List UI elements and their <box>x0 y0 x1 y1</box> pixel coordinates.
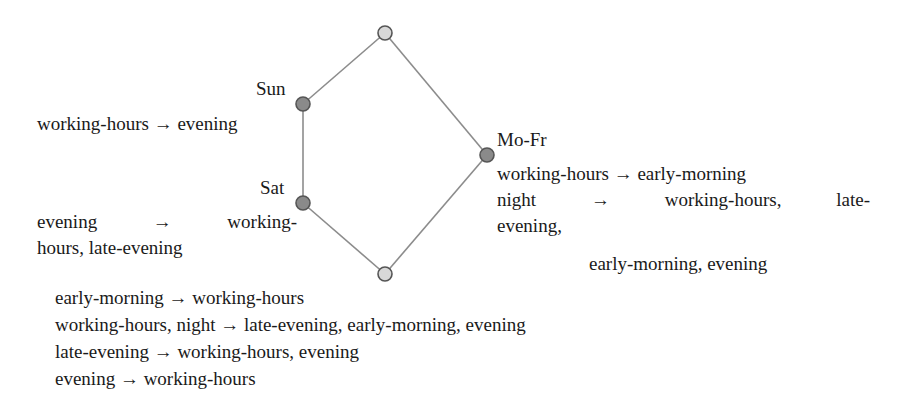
rule-mofr-rhs-a: working-hours, <box>665 188 782 212</box>
label-mofr: Mo-Fr <box>497 128 547 152</box>
rule-mofr-arrow: → <box>591 188 610 212</box>
node-bottom <box>378 267 392 281</box>
rule-mofr-rhs-b: late- <box>836 188 870 212</box>
rule-sat-line1: evening → working- <box>37 210 297 234</box>
label-sun: Sun <box>256 77 286 101</box>
edge-top-mofr <box>385 33 487 155</box>
rule-sat-line2: hours, late-evening <box>37 236 183 260</box>
rule-bottom-1: working-hours, night → late-evening, ear… <box>55 313 526 337</box>
rule-mofr-line4: early-morning, evening <box>589 252 767 276</box>
edge-mofr-bottom <box>385 155 487 274</box>
rule-sat-rhs: working- <box>227 210 297 234</box>
rule-sat-lhs: evening <box>37 210 97 234</box>
node-sun <box>296 97 310 111</box>
rule-mofr-lhs: night <box>497 188 536 212</box>
label-sat: Sat <box>260 176 284 200</box>
edge-top-sun <box>303 33 385 104</box>
rule-mofr-line2: night → working-hours, late- <box>497 188 870 212</box>
rule-bottom-3: evening → working-hours <box>55 367 256 391</box>
node-mofr <box>480 148 494 162</box>
rule-bottom-0: early-morning → working-hours <box>55 286 304 310</box>
rule-mofr-line1: working-hours → early-morning <box>497 162 746 186</box>
edge-sat-bottom <box>303 203 385 274</box>
node-sat <box>296 196 310 210</box>
node-top <box>378 26 392 40</box>
rule-bottom-2: late-evening → working-hours, evening <box>55 340 359 364</box>
rule-sun-0: working-hours → evening <box>37 112 238 136</box>
rule-sat-arrow: → <box>153 210 172 234</box>
rule-mofr-line3: evening, <box>497 214 562 238</box>
